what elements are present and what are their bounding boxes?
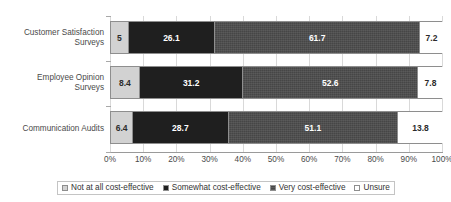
legend-label: Unsure [363,183,389,192]
x-axis-tick-label: 90% [401,155,417,164]
category-axis-tick [106,152,111,153]
category-label: Employee Opinion Surveys [8,73,104,93]
x-axis-tick-label: 70% [334,155,350,164]
bar-value-label: 7.2 [426,33,438,43]
bar-value-label: 5 [117,33,122,43]
value-axis-line [110,152,443,153]
category-axis-tick [106,16,111,17]
bar-segment: 26.1 [128,22,215,53]
x-axis-tick-label: 40% [235,155,251,164]
bar-stack: 526.161.77.2 [110,21,442,54]
bar-stack: 6.428.751.113.8 [110,111,442,144]
legend-item[interactable]: Very cost-effective [270,183,346,192]
legend-label: Very cost-effective [279,183,346,192]
legend-swatch-icon [270,185,276,191]
bar-segment: 6.4 [111,112,132,143]
legend-swatch-icon [163,185,169,191]
bar-segment: 52.6 [242,67,417,98]
legend-swatch-icon [354,185,360,191]
stacked-bar-chart: Perceived cost-effectiveness 0%10%20%30%… [0,0,451,202]
bar-segment: 5 [111,22,128,53]
legend-item[interactable]: Unsure [354,183,389,192]
category-label: Customer Satisfaction Surveys [8,28,104,48]
chart-title: Perceived cost-effectiveness [3,0,129,1]
bar-segment: 13.8 [397,112,443,143]
bar-value-label: 7.8 [425,78,437,88]
x-axis-tick-label: 60% [301,155,317,164]
bar-segment: 28.7 [132,112,227,143]
bar-segment: 51.1 [228,112,398,143]
category-label: Communication Audits [8,124,104,134]
x-axis-tick-label: 20% [168,155,184,164]
x-axis-tick-label: 50% [268,155,284,164]
x-axis-tick-label: 100% [432,155,451,164]
bar-value-label: 13.8 [412,123,429,133]
bar-value-label: 8.4 [119,78,131,88]
legend-label: Not at all cost-effective [71,183,154,192]
bar-value-label: 26.1 [163,33,180,43]
bar-segment: 61.7 [214,22,419,53]
legend-item[interactable]: Not at all cost-effective [62,183,154,192]
category-axis-tick [106,106,111,107]
chart-legend: Not at all cost-effectiveSomewhat cost-e… [57,181,395,195]
legend-item[interactable]: Somewhat cost-effective [163,183,261,192]
x-axis-tick-label: 80% [367,155,383,164]
bar-stack: 8.431.252.67.8 [110,66,442,99]
bar-value-label: 61.7 [309,33,326,43]
bar-segment: 7.8 [417,67,443,98]
legend-swatch-icon [62,185,68,191]
x-axis-tick-label: 30% [201,155,217,164]
bar-value-label: 52.6 [322,78,339,88]
bar-value-label: 51.1 [305,123,322,133]
bar-segment: 31.2 [139,67,243,98]
bar-value-label: 6.4 [116,123,128,133]
bar-value-label: 31.2 [183,78,200,88]
bar-segment: 7.2 [419,22,443,53]
x-axis-tick-label: 10% [135,155,151,164]
x-axis-tick-label: 0% [104,155,116,164]
x-axis-tick-labels: 0%10%20%30%40%50%60%70%80%90%100% [110,155,442,169]
bar-value-label: 28.7 [172,123,189,133]
category-axis-tick [106,61,111,62]
bar-segment: 8.4 [111,67,139,98]
legend-label: Somewhat cost-effective [172,183,261,192]
